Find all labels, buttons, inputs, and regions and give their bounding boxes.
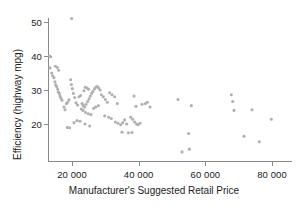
scatter-point [188, 148, 191, 151]
x-axis-title: Manufacturer's Suggested Retail Price [0, 185, 308, 196]
scatter-point [176, 98, 179, 101]
scatter-point [108, 91, 111, 94]
scatter-point [83, 122, 86, 125]
y-axis-title: Efficiency (highway mpg) [12, 49, 23, 160]
scatter-point [76, 103, 79, 106]
scatter-point [146, 101, 149, 104]
scatter-point [127, 131, 130, 134]
scatter-point [52, 76, 55, 79]
scatter-point [123, 118, 126, 121]
scatter-point [56, 66, 59, 69]
scatter-point [50, 71, 53, 74]
scatter-point [132, 95, 135, 98]
scatter-point [86, 100, 89, 103]
scatter-point [232, 109, 235, 112]
scatter-point [73, 96, 76, 99]
scatter-point [81, 109, 84, 112]
scatter-point [242, 135, 245, 138]
scatter-point [148, 105, 151, 108]
scatter-point [116, 102, 119, 105]
scatter-point [131, 118, 134, 121]
scatter-point [53, 80, 56, 83]
scatter-point [49, 55, 52, 58]
scatter-point [67, 98, 70, 101]
scatter-point [70, 83, 73, 86]
scatter-point [125, 122, 128, 125]
scatter-point [187, 132, 190, 135]
scatter-point [258, 140, 261, 143]
scatter-point [110, 93, 113, 96]
scatter-point [94, 105, 97, 108]
scatter-point [110, 117, 113, 120]
scatter-point [231, 100, 234, 103]
scatter-point [98, 88, 101, 91]
data-points [48, 17, 273, 153]
scatter-point [55, 85, 58, 88]
scatter-point [62, 105, 65, 108]
scatter-point [102, 95, 105, 98]
x-tick-label: 40 000 [124, 169, 154, 180]
plot-canvas [0, 0, 308, 213]
scatter-point [58, 92, 61, 95]
scatter-point [190, 104, 193, 107]
scatter-point [113, 95, 116, 98]
scatter-point [87, 97, 90, 100]
scatter-point [103, 114, 106, 117]
scatter-point [180, 150, 183, 153]
scatter-point [70, 17, 73, 20]
axes [44, 18, 292, 166]
scatter-point [84, 103, 87, 106]
scatter-point [75, 119, 78, 122]
scatter-point [83, 105, 86, 108]
y-tick-label: 40 [20, 51, 42, 62]
scatter-point [72, 121, 75, 124]
scatter-point [88, 124, 91, 127]
scatter-point [104, 98, 107, 101]
scatter-point [79, 94, 82, 97]
scatter-point [87, 112, 90, 115]
y-tick-label: 50 [20, 17, 42, 28]
scatter-point [68, 126, 71, 129]
scatter-point [89, 113, 92, 116]
scatter-point [72, 92, 75, 95]
scatter-point [87, 88, 90, 91]
scatter-point [71, 87, 74, 90]
x-tick-label: 60 000 [190, 169, 220, 180]
scatter-point [138, 122, 141, 125]
scatter-point [56, 88, 59, 91]
scatter-point [78, 120, 81, 123]
scatter-point [121, 121, 124, 124]
scatter-point [48, 66, 51, 69]
scatter-point [250, 108, 253, 111]
scatter-point [270, 118, 273, 121]
y-tick-label: 20 [20, 119, 42, 130]
scatter-point [134, 105, 137, 108]
scatter-point [69, 78, 72, 81]
scatter-point [89, 95, 92, 98]
scatter-point [107, 116, 110, 119]
scatter-point [57, 69, 60, 72]
scatter-point [130, 131, 133, 134]
scatter-point [116, 122, 119, 125]
scatter-point [230, 93, 233, 96]
scatter-point [84, 111, 87, 114]
x-tick-label: 20 000 [57, 169, 87, 180]
y-tick-label: 30 [20, 85, 42, 96]
scatter-point [120, 131, 123, 134]
scatter-point [106, 101, 109, 104]
scatter-point [97, 104, 100, 107]
scatter-point [91, 90, 94, 93]
scatter-point [63, 108, 66, 111]
scatter-point [60, 99, 63, 102]
scatter-point [114, 120, 117, 123]
x-tick-label: 80 000 [257, 169, 287, 180]
scatter-point [140, 103, 143, 106]
scatter-plot-figure: 20304050 20 00040 00060 00080 000 Manufa… [0, 0, 308, 213]
scatter-point [82, 89, 85, 92]
